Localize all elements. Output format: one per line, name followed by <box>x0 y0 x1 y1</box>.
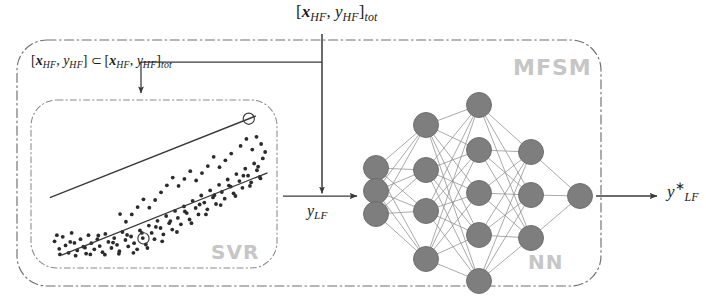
scatter-point <box>255 168 259 172</box>
scatter-point <box>153 198 157 202</box>
scatter-point <box>53 239 57 243</box>
var-x-subscript: HF <box>310 10 326 24</box>
scatter-point <box>126 245 130 249</box>
nn-node-input-layer <box>364 202 389 227</box>
label-subset-relation: [xHF, yHF]⊂[xHF, yHF]tot <box>31 53 172 69</box>
tag-mfsm: MFSM <box>513 55 592 80</box>
scatter-point <box>68 240 72 244</box>
tot-subscript: tot <box>364 10 377 24</box>
label-y-lf-star: y∗LF <box>667 182 699 202</box>
scatter-point <box>188 169 192 173</box>
scatter-point <box>98 244 102 248</box>
var-y-subscript: HF <box>69 59 82 70</box>
scatter-point <box>141 236 145 240</box>
label-total-dataset: [xHF, yHF]tot <box>296 2 378 22</box>
scatter-point <box>64 244 68 248</box>
tag-nn: NN <box>528 250 563 274</box>
scatter-point <box>183 210 187 214</box>
scatter-point <box>55 233 59 237</box>
scatter-point <box>229 152 233 156</box>
comma: , <box>326 2 335 21</box>
scatter-point <box>70 231 74 235</box>
nn-node-hidden-layer-1 <box>414 158 439 183</box>
scatter-point <box>118 212 122 216</box>
scatter-point <box>223 197 227 201</box>
scatter-point <box>146 246 150 250</box>
scatter-point <box>208 189 212 193</box>
scatter-point <box>246 174 250 178</box>
scatter-point <box>170 228 174 232</box>
var-x-subscript: HF <box>43 59 56 70</box>
scatter-point <box>256 165 260 169</box>
scatter-point <box>177 184 181 188</box>
scatter-point <box>84 252 88 256</box>
scatter-point <box>159 226 163 230</box>
scatter-point <box>147 224 151 228</box>
scatter-point <box>150 231 154 235</box>
scatter-point <box>248 184 252 188</box>
scatter-point <box>147 206 151 210</box>
scatter-point <box>129 235 133 239</box>
scatter-point <box>103 253 107 257</box>
scatter-point <box>132 251 136 255</box>
scatter-point <box>87 233 91 237</box>
scatter-point <box>190 221 194 225</box>
scatter-point <box>194 206 198 210</box>
scatter-point <box>263 150 267 154</box>
scatter-point <box>171 176 175 180</box>
scatter-point <box>110 246 114 250</box>
diagram-vector-layer <box>0 0 706 307</box>
scatter-point <box>92 247 96 251</box>
var-x-2-subscript: HF <box>116 59 129 70</box>
scatter-point <box>165 183 169 187</box>
nn-node-hidden-layer-1 <box>414 199 439 224</box>
scatter-point <box>250 148 254 152</box>
scatter-point <box>103 232 107 236</box>
scatter-point <box>214 202 218 206</box>
diagram-canvas: [xHF, yHF]tot [xHF, yHF]⊂[xHF, yHF]tot y… <box>0 0 706 307</box>
nn-node-hidden-layer-2 <box>467 223 492 248</box>
scatter-point <box>175 230 179 234</box>
scatter-point <box>132 241 136 245</box>
scatter-point <box>73 241 77 245</box>
comma-2: , <box>130 53 137 68</box>
scatter-point <box>156 219 160 223</box>
scatter-point <box>255 135 259 139</box>
bracket-close: ] <box>83 53 88 68</box>
scatter-point <box>200 171 204 175</box>
label-y-lf: yLF <box>307 202 328 220</box>
nn-node-hidden-layer-3 <box>519 140 544 165</box>
scatter-point <box>136 205 140 209</box>
scatter-point <box>168 219 172 223</box>
scatter-point <box>234 194 238 198</box>
nn-node-hidden-layer-1 <box>414 113 439 138</box>
nn-node-hidden-layer-2 <box>467 181 492 206</box>
scatter-point <box>135 247 139 251</box>
scatter-point <box>218 165 222 169</box>
scatter-point <box>106 240 110 244</box>
nn-edge <box>426 211 479 281</box>
nn-node-hidden-layer-2 <box>467 138 492 163</box>
nn-node-hidden-layer-3 <box>519 226 544 251</box>
scatter-point <box>153 237 157 241</box>
scatter-point <box>202 201 206 205</box>
scatter-point <box>58 253 62 257</box>
scatter-point <box>259 177 263 181</box>
scatter-point <box>159 190 163 194</box>
var-y-2: y <box>137 53 143 68</box>
scatter-point <box>124 238 128 242</box>
nn-node-hidden-layer-1 <box>414 247 439 272</box>
scatter-point <box>259 142 263 146</box>
scatter-point <box>219 203 223 207</box>
scatter-point <box>241 174 245 178</box>
scatter-point <box>142 197 146 201</box>
scatter-point <box>204 213 208 217</box>
nn-node-hidden-layer-2 <box>467 93 492 118</box>
scatter-point <box>194 179 198 183</box>
scatter-point <box>199 194 203 198</box>
scatter-point <box>239 144 243 148</box>
nn-node-hidden-layer-2 <box>467 269 492 294</box>
scatter-point <box>205 207 209 211</box>
tube-upper-boundary <box>50 116 256 198</box>
scatter-point <box>179 222 183 226</box>
